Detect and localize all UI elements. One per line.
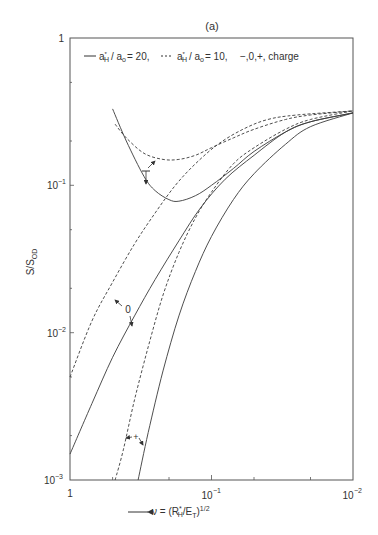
svg-text:−2: −2 xyxy=(58,326,66,333)
y-axis-label: S/SOD xyxy=(25,249,38,276)
x-tick-labels: 1 10 −1 10 −2 xyxy=(67,487,362,501)
svg-text:−2: −2 xyxy=(354,487,362,494)
curve-2 xyxy=(70,113,353,454)
svg-text:−1: −1 xyxy=(58,178,66,185)
legend-solid-label: a*H/ ao= 20, xyxy=(99,51,150,63)
svg-text:−1: −1 xyxy=(213,487,221,494)
zero-label: 0 xyxy=(125,304,131,315)
annotations: 0 + xyxy=(115,161,155,445)
svg-text:10: 10 xyxy=(342,490,354,501)
svg-text:10: 10 xyxy=(47,328,59,339)
svg-text:1: 1 xyxy=(58,33,64,44)
legend-dashed-label: a*H/ ao= 10, xyxy=(177,51,228,63)
curve-3 xyxy=(70,111,353,377)
y-tick-labels: 1 10 −1 10 −2 10 −3 xyxy=(44,33,66,486)
curve-4 xyxy=(138,113,353,480)
legend: a*H/ ao= 20, a*H/ ao= 10, −,0,+, charge xyxy=(84,51,299,63)
svg-text:−3: −3 xyxy=(55,473,63,480)
chart-title: (a) xyxy=(205,20,218,32)
plus-label: + xyxy=(133,432,138,442)
curves xyxy=(70,109,353,480)
x-axis-label: ν = (R*H/ET)1/2 xyxy=(128,505,210,519)
chart: (a) 1 10 −1 10 −2 10 −3 1 10 −1 10 −2 xyxy=(0,0,378,535)
plot-frame xyxy=(70,38,353,480)
svg-text:10: 10 xyxy=(44,475,56,486)
svg-text:ν = (R*H/ET)1/2: ν = (R*H/ET)1/2 xyxy=(152,505,210,519)
legend-charge-label: −,0,+, charge xyxy=(240,51,299,62)
svg-text:10: 10 xyxy=(201,490,213,501)
svg-text:10: 10 xyxy=(47,180,59,191)
svg-text:1: 1 xyxy=(67,488,73,499)
y-ticks xyxy=(70,82,74,435)
curve-5 xyxy=(115,111,353,480)
svg-text:S/SOD: S/SOD xyxy=(25,249,38,276)
x-ticks xyxy=(113,475,311,480)
